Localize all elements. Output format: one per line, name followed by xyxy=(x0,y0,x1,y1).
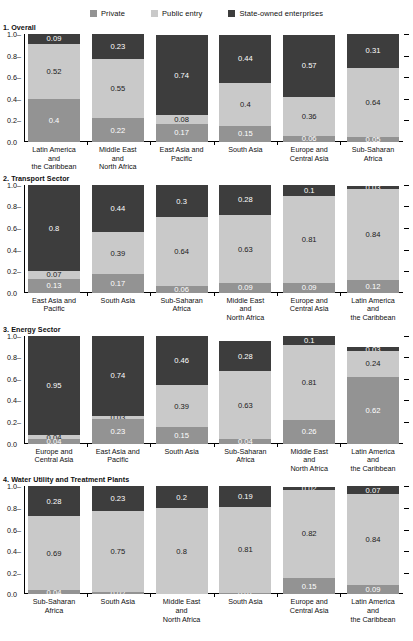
bar-segment-private[interactable]: 0.26 xyxy=(283,420,335,444)
stacked-bar[interactable]: 0.440.390.17 xyxy=(92,185,144,293)
bar-segment-public[interactable]: 0.64 xyxy=(156,217,208,286)
x-axis-tick-mark xyxy=(340,293,341,296)
bar-segment-public[interactable]: 0.81 xyxy=(283,196,335,283)
bar-segment-state[interactable]: 0.8 xyxy=(28,185,80,271)
bar-segment-private[interactable]: 0.15 xyxy=(219,126,271,142)
bar-segment-state[interactable]: 0.95 xyxy=(28,336,80,436)
stacked-bar[interactable]: 0.440.40.15 xyxy=(219,34,271,142)
x-axis-category-line: the Caribbean xyxy=(347,314,399,323)
x-axis-tick-mark xyxy=(150,594,151,597)
bar-segment-private[interactable]: 0.04 xyxy=(219,439,271,443)
bar-segment-private[interactable]: 0.17 xyxy=(92,274,144,292)
bar-segment-public[interactable]: 0.4 xyxy=(219,83,271,126)
stacked-bar[interactable]: 0.20.8 xyxy=(156,486,208,594)
bar-segment-private[interactable]: 0.23 xyxy=(92,419,144,444)
x-axis-category-label: Latin Americaandthe Caribbean xyxy=(347,297,399,323)
bar-segment-state[interactable]: 0.74 xyxy=(92,336,144,416)
stacked-bar[interactable]: 0.070.840.09 xyxy=(347,486,399,594)
bar-segment-state[interactable]: 0.19 xyxy=(219,486,271,506)
bar-segment-private[interactable]: 0.04 xyxy=(28,439,80,443)
bar-segment-private[interactable]: 0.02 xyxy=(92,592,144,594)
bar-segment-public[interactable]: 0.52 xyxy=(28,44,80,100)
bar-segment-public[interactable]: 0.24 xyxy=(347,351,399,377)
stacked-bar[interactable]: 0.740.080.17 xyxy=(156,34,208,142)
stacked-bar[interactable]: 0.030.840.12 xyxy=(347,185,399,293)
bar-segment-public[interactable]: 0.64 xyxy=(347,68,399,137)
stacked-bar[interactable]: 0.090.520.4 xyxy=(28,34,80,142)
bar-segment-state[interactable]: 0.23 xyxy=(92,34,144,59)
stacked-bar[interactable]: 0.740.030.23 xyxy=(92,336,144,444)
x-axis-category-line: Central Asia xyxy=(283,155,335,164)
bar-segment-private[interactable]: 0.04 xyxy=(28,590,80,594)
stacked-bar[interactable]: 0.80.070.13 xyxy=(28,185,80,293)
bar-segment-public[interactable]: 0.63 xyxy=(219,371,271,439)
bar-segment-state[interactable]: 0.44 xyxy=(92,185,144,233)
bar-segment-private[interactable]: 0.09 xyxy=(283,283,335,293)
bar-segment-private[interactable]: 0.05 xyxy=(347,137,399,142)
bar-value-label: 0.06 xyxy=(302,136,317,142)
bar-segment-private[interactable]: 0.09 xyxy=(219,283,271,293)
bar-segment-public[interactable]: 0.07 xyxy=(28,271,80,279)
stacked-bar[interactable]: 0.950.040.04 xyxy=(28,336,80,444)
bar-segment-state[interactable]: 0.46 xyxy=(156,336,208,386)
stacked-bar[interactable]: 0.030.240.62 xyxy=(347,336,399,444)
stacked-bar[interactable]: 0.280.630.09 xyxy=(219,185,271,293)
bar-segment-private[interactable]: 0.06 xyxy=(156,286,208,292)
stacked-bar[interactable]: 0.30.640.06 xyxy=(156,185,208,293)
bar-segment-private[interactable]: 0.06 xyxy=(283,136,335,142)
stacked-bar[interactable]: 0.280.690.04 xyxy=(28,486,80,594)
right-axis-tick-mark xyxy=(404,573,409,574)
bar-segment-public[interactable]: 0.36 xyxy=(283,97,335,136)
bar-segment-public[interactable]: 0.63 xyxy=(219,215,271,283)
bar-segment-private[interactable]: 0.15 xyxy=(283,578,335,594)
bar-segment-state[interactable]: 0.28 xyxy=(219,185,271,215)
bar-segment-public[interactable]: 0.84 xyxy=(347,189,399,280)
bar-segment-state[interactable]: 0.74 xyxy=(156,35,208,115)
bar-segment-state[interactable]: 0.2 xyxy=(156,486,208,508)
bar-segment-state[interactable]: 0.57 xyxy=(283,35,335,97)
bar-segment-public[interactable]: 0.75 xyxy=(92,511,144,592)
bar-segment-state[interactable]: 0.09 xyxy=(28,34,80,44)
stacked-bar[interactable]: 0.020.820.15 xyxy=(283,486,335,594)
bar-segment-private[interactable]: 0.09 xyxy=(347,585,399,595)
bar-value-label: 0.81 xyxy=(302,378,317,387)
bar-segment-state[interactable]: 0.23 xyxy=(92,486,144,511)
bar-segment-private[interactable]: 0.62 xyxy=(347,377,399,444)
bar-segment-state[interactable]: 0.07 xyxy=(347,486,399,494)
bar-segment-private[interactable]: 0.22 xyxy=(92,118,144,142)
bar-segment-state[interactable]: 0.31 xyxy=(347,34,399,67)
bar-segment-public[interactable]: 0.84 xyxy=(347,494,399,585)
stacked-bar[interactable]: 0.570.360.06 xyxy=(283,34,335,142)
bar-segment-public[interactable]: 0.55 xyxy=(92,59,144,118)
bar-segment-private[interactable]: 0.13 xyxy=(28,279,80,293)
bar-segment-private[interactable]: 0.17 xyxy=(156,124,208,142)
stacked-bar[interactable]: 0.10.810.26 xyxy=(283,336,335,444)
stacked-bar[interactable]: 0.310.640.05 xyxy=(347,34,399,142)
bar-segment-public[interactable]: 0.8 xyxy=(156,508,208,594)
stacked-bar[interactable]: 0.460.390.15 xyxy=(156,336,208,444)
stacked-bar[interactable]: 0.230.750.02 xyxy=(92,486,144,594)
bar-segment-state[interactable]: 0.28 xyxy=(219,341,271,371)
bar-segment-public[interactable]: 0.08 xyxy=(156,115,208,124)
bar-segment-public[interactable]: 0.39 xyxy=(156,385,208,427)
bar-segment-private[interactable]: 0.01 xyxy=(219,593,271,594)
bar-segment-state[interactable]: 0.3 xyxy=(156,185,208,217)
bar-segment-public[interactable]: 0.69 xyxy=(28,516,80,590)
bar-segment-state[interactable]: 0.1 xyxy=(283,185,335,196)
stacked-bar[interactable]: 0.10.810.09 xyxy=(283,185,335,293)
bar-segment-public[interactable]: 0.81 xyxy=(219,507,271,594)
stacked-bar[interactable]: 0.280.630.04 xyxy=(219,336,271,444)
bar-segment-state[interactable]: 0.1 xyxy=(283,336,335,345)
x-axis-category-label: Europe andCentral Asia xyxy=(283,297,335,323)
bar-segment-public[interactable]: 0.39 xyxy=(92,232,144,274)
y-axis-tick-label: 0.8 – xyxy=(7,503,22,512)
bar-segment-public[interactable]: 0.82 xyxy=(283,490,335,579)
stacked-bar[interactable]: 0.190.810.01 xyxy=(219,486,271,594)
bar-segment-private[interactable]: 0.12 xyxy=(347,280,399,293)
bar-segment-private[interactable]: 0.15 xyxy=(156,427,208,443)
bar-segment-public[interactable]: 0.81 xyxy=(283,345,335,420)
bar-segment-state[interactable]: 0.44 xyxy=(219,35,271,83)
bar-segment-state[interactable]: 0.28 xyxy=(28,486,80,516)
stacked-bar[interactable]: 0.230.550.22 xyxy=(92,34,144,142)
bar-segment-private[interactable]: 0.4 xyxy=(28,99,80,142)
